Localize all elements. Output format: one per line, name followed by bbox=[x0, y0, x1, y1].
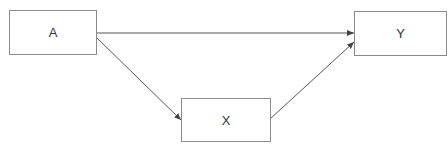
node-x-label: X bbox=[222, 113, 231, 128]
node-y-label: Y bbox=[396, 26, 405, 41]
node-y: Y bbox=[354, 11, 447, 56]
edge-a-to-x bbox=[97, 38, 181, 120]
node-x: X bbox=[181, 98, 271, 142]
node-a-label: A bbox=[49, 25, 58, 40]
edge-x-to-y bbox=[270, 42, 354, 119]
node-a: A bbox=[9, 10, 97, 55]
